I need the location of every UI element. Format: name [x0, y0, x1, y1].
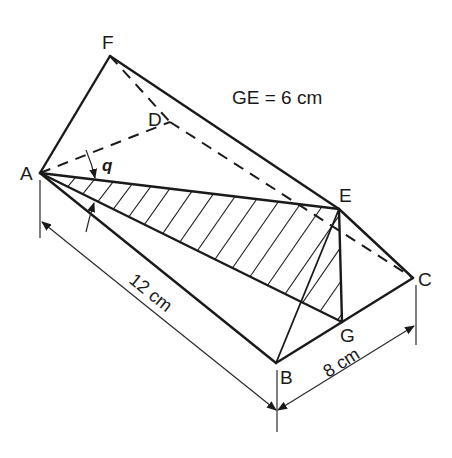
edge-eb — [276, 209, 339, 363]
annotation-ge: GE = 6 cm — [232, 87, 322, 108]
edge-ag — [40, 173, 342, 322]
angle-q-label: q — [102, 156, 113, 175]
vertex-label-g: G — [340, 325, 355, 346]
prism-diagram: q 12 cm 8 cm GE = 6 cm A F D E C G B — [0, 0, 452, 458]
edge-ab — [40, 173, 276, 363]
vertex-label-a: A — [20, 163, 33, 184]
dimension-label-8cm: 8 cm — [320, 344, 364, 382]
vertex-label-b: B — [280, 367, 293, 388]
vertex-label-d: D — [148, 109, 162, 130]
vertex-label-c: C — [418, 269, 432, 290]
dimension-line-12cm-b — [150, 309, 276, 410]
angle-q-arc-upper — [86, 150, 95, 178]
edge-ec — [339, 209, 413, 278]
vertex-label-e: E — [339, 185, 352, 206]
dimension-line-12cm — [42, 222, 150, 309]
angle-q-arc-lower — [86, 203, 94, 232]
vertex-label-f: F — [102, 32, 114, 53]
edge-af — [40, 56, 110, 173]
shaded-triangle-aeg — [40, 160, 430, 342]
edge-eg — [339, 209, 342, 322]
